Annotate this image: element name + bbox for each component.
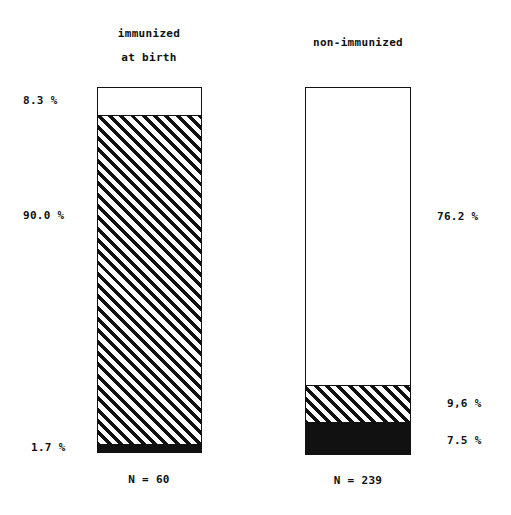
bar-non-immunized (305, 87, 411, 455)
bar-immunized-at-birth (97, 87, 202, 453)
bar1-label-black: 1.7 % (31, 441, 66, 454)
bar1-title-line1: immunized (118, 27, 180, 40)
bar2-label-black: 7.5 % (447, 434, 482, 447)
bar1-n-label: N = 60 (128, 473, 170, 486)
bar2-segment-black (306, 422, 410, 454)
bar2-title: non-immunized (313, 36, 403, 49)
bar1-label-hatched: 90.0 % (23, 209, 65, 222)
bar1-segment-white (98, 88, 201, 115)
bar2-n-label: N = 239 (334, 474, 382, 487)
bar2-label-white: 76.2 % (437, 210, 479, 223)
bar1-label-white: 8.3 % (23, 94, 58, 107)
bar1-title-line2: at birth (121, 51, 176, 64)
bar2-label-hatched: 9,6 % (447, 397, 482, 410)
bar1-segment-hatched (98, 115, 201, 446)
bar1-segment-black (98, 444, 201, 452)
bar2-segment-white (306, 88, 410, 386)
bar2-segment-hatched (306, 385, 410, 424)
